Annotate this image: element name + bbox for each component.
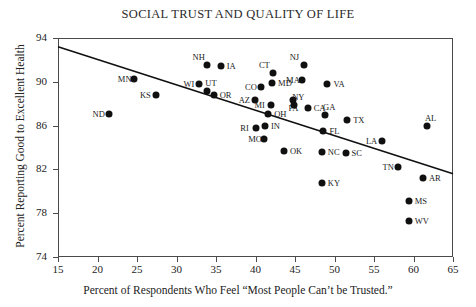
data-point-label: MO — [248, 134, 262, 144]
data-point — [344, 117, 351, 124]
data-point — [300, 62, 307, 69]
x-tick-label: 50 — [320, 263, 350, 275]
y-tick-label: 86 — [21, 119, 47, 131]
data-point — [269, 79, 276, 86]
x-tick-label: 60 — [399, 263, 429, 275]
data-point-label: LA — [366, 136, 377, 146]
x-tick-label: 20 — [83, 263, 113, 275]
y-tick-label: 94 — [21, 31, 47, 43]
data-point-label: TN — [382, 162, 393, 172]
data-point — [405, 217, 412, 224]
x-tick-label: 25 — [122, 263, 152, 275]
data-point — [210, 91, 217, 98]
data-point-label: IN — [271, 121, 280, 131]
data-point — [318, 179, 325, 186]
data-point-label: FL — [329, 126, 339, 136]
data-point-label: GA — [323, 102, 335, 112]
data-point-label: NJ — [290, 52, 299, 62]
data-point-label: TX — [353, 115, 364, 125]
x-tick-mark — [453, 257, 454, 262]
y-tick-label: 78 — [21, 206, 47, 218]
x-tick-label: 15 — [43, 263, 73, 275]
x-tick-mark — [98, 257, 99, 262]
data-point — [203, 62, 210, 69]
data-point-label: KY — [328, 178, 340, 188]
data-point — [265, 110, 272, 117]
y-axis-label: Percent Reporting Good to Excellent Heal… — [14, 21, 26, 271]
data-point — [395, 164, 402, 171]
data-point — [258, 84, 265, 91]
data-point — [419, 175, 426, 182]
data-point-label: AZ — [239, 95, 250, 105]
data-point — [423, 122, 430, 129]
data-point — [320, 128, 327, 135]
data-point-label: KS — [140, 90, 151, 100]
x-tick-label: 45 — [280, 263, 310, 275]
x-tick-label: 30 — [162, 263, 192, 275]
x-tick-mark — [256, 257, 257, 262]
data-point-label: IA — [227, 61, 236, 71]
data-point-label: NC — [328, 147, 340, 157]
chart-title: SOCIAL TRUST AND QUALITY OF LIFE — [0, 7, 476, 22]
data-point-label: WV — [415, 216, 429, 226]
chart-figure: SOCIAL TRUST AND QUALITY OF LIFE Percent… — [0, 0, 476, 307]
x-tick-mark — [335, 257, 336, 262]
data-point-label: OK — [290, 146, 302, 156]
x-tick-label: 55 — [359, 263, 389, 275]
data-point — [105, 110, 112, 117]
data-point — [378, 137, 385, 144]
data-point-label: VA — [333, 79, 344, 89]
data-point — [269, 70, 276, 77]
x-tick-label: 35 — [201, 263, 231, 275]
x-axis-label: Percent of Respondents Who Feel “Most Pe… — [0, 284, 476, 296]
data-point — [196, 80, 203, 87]
data-point-label: NH — [193, 52, 205, 62]
data-point-label: AR — [429, 173, 441, 183]
data-point — [217, 63, 224, 70]
data-point — [322, 111, 329, 118]
data-point-label: MS — [415, 196, 427, 206]
y-tick-mark — [53, 213, 58, 214]
data-point-label: WI — [183, 79, 194, 89]
x-tick-label: 40 — [241, 263, 271, 275]
x-tick-mark — [295, 257, 296, 262]
x-tick-mark — [137, 257, 138, 262]
data-point-label: OR — [220, 90, 232, 100]
data-point — [280, 147, 287, 154]
data-point-label: OH — [274, 109, 286, 119]
data-point-label: MA — [286, 75, 300, 85]
x-tick-mark — [414, 257, 415, 262]
data-point-label: MI — [255, 100, 265, 110]
x-tick-label: 65 — [438, 263, 468, 275]
plot-area — [58, 38, 453, 257]
y-tick-mark — [53, 38, 58, 39]
data-point — [318, 148, 325, 155]
y-tick-label: 82 — [21, 162, 47, 174]
x-tick-mark — [177, 257, 178, 262]
data-point — [267, 101, 274, 108]
data-point — [324, 80, 331, 87]
y-tick-label: 74 — [21, 250, 47, 262]
data-point-label: UT — [205, 78, 216, 88]
data-point — [253, 124, 260, 131]
data-point-label: AL — [425, 113, 436, 123]
data-point-label: NY — [292, 92, 304, 102]
data-point — [291, 101, 298, 108]
data-point — [405, 198, 412, 205]
data-point — [304, 105, 311, 112]
data-point-label: SC — [352, 148, 362, 158]
y-tick-label: 90 — [21, 75, 47, 87]
y-tick-mark — [53, 126, 58, 127]
data-point — [261, 122, 268, 129]
data-point-label: ND — [93, 109, 105, 119]
data-point — [152, 91, 159, 98]
x-tick-mark — [216, 257, 217, 262]
data-point-label: CT — [259, 60, 270, 70]
y-tick-mark — [53, 169, 58, 170]
data-point-label: CO — [245, 82, 257, 92]
x-tick-mark — [58, 257, 59, 262]
data-point-label: RI — [240, 123, 249, 133]
data-point-label: MN — [118, 74, 132, 84]
y-tick-mark — [53, 82, 58, 83]
data-point — [342, 149, 349, 156]
